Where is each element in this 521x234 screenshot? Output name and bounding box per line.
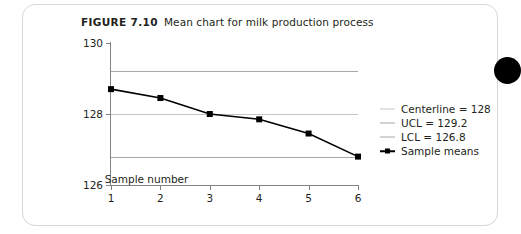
legend-label: LCL = 126.8 xyxy=(401,131,466,143)
legend-swatch-icon xyxy=(380,131,395,143)
legend-item: Sample means xyxy=(380,144,515,158)
legend-item: Centerline = 128 xyxy=(380,102,515,116)
x-axis-title: Sample number xyxy=(23,173,270,185)
data-point-marker xyxy=(157,95,163,101)
y-tick-label: 130 xyxy=(83,37,103,49)
chart-legend: Centerline = 128UCL = 129.2LCL = 126.8Sa… xyxy=(380,102,515,158)
decorative-circle xyxy=(494,57,521,84)
legend-label: UCL = 129.2 xyxy=(401,117,467,129)
x-tick-label: 6 xyxy=(355,192,362,204)
legend-label: Centerline = 128 xyxy=(401,103,491,115)
series-line xyxy=(111,89,358,156)
x-tick-label: 3 xyxy=(206,192,213,204)
legend-swatch-icon xyxy=(380,145,395,157)
x-tick xyxy=(358,185,359,190)
x-tick-label: 5 xyxy=(305,192,312,204)
figure-caption: Mean chart for milk production process xyxy=(164,16,374,28)
x-tick xyxy=(111,185,112,190)
legend-label: Sample means xyxy=(401,145,479,157)
legend-swatch-icon xyxy=(380,117,395,129)
legend-swatch-icon xyxy=(380,103,395,115)
x-tick-label: 1 xyxy=(108,192,115,204)
data-point-marker xyxy=(207,111,213,117)
data-point-marker xyxy=(306,131,312,137)
series-sample-means xyxy=(111,43,358,185)
legend-item: LCL = 126.8 xyxy=(380,130,515,144)
figure-card: FIGURE 7.10Mean chart for milk productio… xyxy=(22,4,498,226)
data-point-marker xyxy=(355,154,361,160)
x-tick-label: 2 xyxy=(157,192,164,204)
x-tick-label: 4 xyxy=(256,192,263,204)
x-tick xyxy=(309,185,310,190)
y-tick-label: 128 xyxy=(83,108,103,120)
data-point-marker xyxy=(108,86,114,92)
legend-item: UCL = 129.2 xyxy=(380,116,515,130)
x-axis-line xyxy=(110,185,358,186)
chart-plot-area: 126128130 123456 xyxy=(111,43,358,185)
x-tick xyxy=(160,185,161,190)
figure-number: FIGURE 7.10 xyxy=(81,16,158,28)
figure-title: FIGURE 7.10Mean chart for milk productio… xyxy=(81,16,374,28)
x-tick xyxy=(210,185,211,190)
x-tick xyxy=(259,185,260,190)
data-point-marker xyxy=(256,116,262,122)
